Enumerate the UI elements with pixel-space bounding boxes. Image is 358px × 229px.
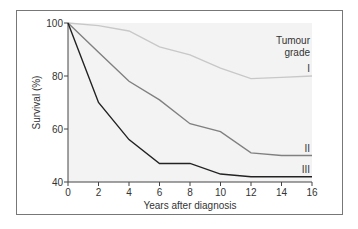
x-tick-label: 14	[276, 187, 288, 198]
y-tick-label: 60	[52, 124, 64, 135]
x-tick-label: 2	[96, 187, 102, 198]
series-label-grade-ii: II	[304, 143, 310, 154]
series-label-grade-iii: III	[302, 164, 310, 175]
x-tick-label: 4	[126, 187, 132, 198]
x-tick-label: 0	[65, 187, 71, 198]
plot-area	[68, 23, 312, 182]
survival-line-chart: 0246810121416406080100Years after diagno…	[0, 0, 358, 229]
legend-title-line1: Tumour	[276, 35, 311, 46]
x-tick-label: 8	[187, 187, 193, 198]
y-axis-label: Survival (%)	[31, 76, 42, 130]
legend-title-line2: grade	[284, 47, 310, 58]
y-tick-label: 40	[52, 177, 64, 188]
series-label-grade-i: I	[307, 63, 310, 74]
y-tick-label: 80	[52, 71, 64, 82]
x-axis-label: Years after diagnosis	[143, 200, 236, 211]
x-tick-label: 10	[215, 187, 227, 198]
x-tick-label: 12	[245, 187, 257, 198]
x-tick-label: 16	[306, 187, 318, 198]
x-tick-label: 6	[157, 187, 163, 198]
y-tick-label: 100	[46, 18, 63, 29]
